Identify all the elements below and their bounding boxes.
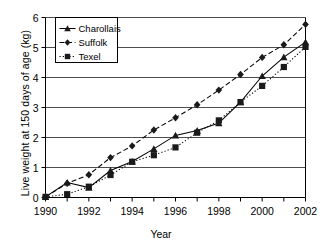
svg-text:3: 3 <box>33 102 39 114</box>
chart-legend: CharollaisSuffolkTexel <box>56 18 121 63</box>
y-axis-title: Live weight at 150 days of age (kg) <box>15 25 33 201</box>
svg-text:2002: 2002 <box>294 205 318 217</box>
x-axis-title: Year <box>0 228 322 240</box>
series-texel <box>42 44 308 200</box>
y-axis-ticks: 0123456 <box>33 12 46 204</box>
legend-label-suffolk: Suffolk <box>79 37 108 48</box>
svg-text:1: 1 <box>33 162 39 174</box>
svg-text:1990: 1990 <box>34 205 58 217</box>
y-axis-title-text: Live weight at 150 days of age (kg) <box>19 30 31 196</box>
svg-text:5: 5 <box>33 42 39 54</box>
svg-text:6: 6 <box>33 12 39 24</box>
svg-text:1996: 1996 <box>164 205 188 217</box>
legend-label-charollais: Charollais <box>79 23 121 34</box>
svg-text:1992: 1992 <box>77 205 101 217</box>
line-chart: 0123456 1990199219941996199820002002 Cha… <box>0 0 322 249</box>
svg-text:1994: 1994 <box>120 205 144 217</box>
svg-text:1998: 1998 <box>207 205 231 217</box>
svg-text:0: 0 <box>33 192 39 204</box>
svg-text:2000: 2000 <box>250 205 274 217</box>
svg-text:4: 4 <box>33 72 39 84</box>
svg-text:2: 2 <box>33 132 39 144</box>
chart-canvas: 0123456 1990199219941996199820002002 Cha… <box>0 0 322 249</box>
x-axis-ticks: 1990199219941996199820002002 <box>34 198 318 217</box>
legend-label-texel: Texel <box>79 51 101 62</box>
